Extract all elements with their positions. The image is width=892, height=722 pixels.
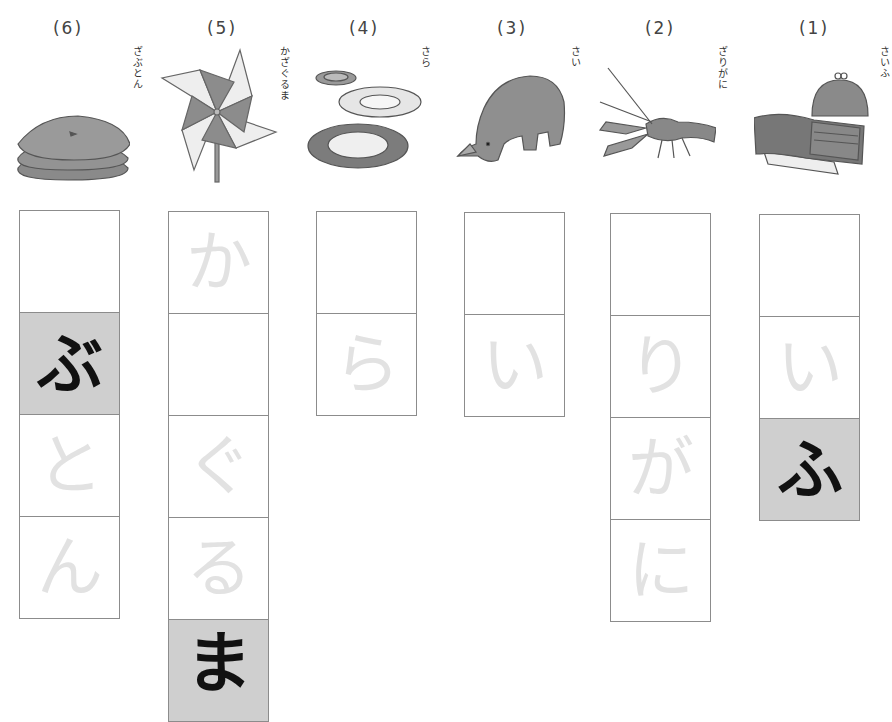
trace-character-cell[interactable]: ぐ xyxy=(169,416,268,518)
answer-column: さ い xyxy=(464,212,565,417)
model-character-cell: ふ xyxy=(760,419,859,521)
answer-column: ざ り が に xyxy=(610,213,711,622)
zabuton-cushions-picture xyxy=(10,40,130,185)
trace-character-cell[interactable]: ら xyxy=(317,314,416,416)
rhinoceros-picture xyxy=(454,40,574,185)
trace-character-cell[interactable]: る xyxy=(169,518,268,620)
item-4: (4) さら さ ら xyxy=(296,0,444,658)
answer-cell-blank[interactable]: さ xyxy=(465,213,564,315)
answer-column: か ざ ぐ る ま xyxy=(168,211,269,722)
crayfish-picture xyxy=(596,40,716,185)
item-word-label: さいふ xyxy=(878,46,888,79)
plates-picture xyxy=(304,40,424,185)
answer-cell-blank[interactable]: さ xyxy=(317,212,416,314)
trace-character-cell[interactable]: い xyxy=(760,317,859,419)
trace-character-cell[interactable]: ん xyxy=(20,517,119,619)
trace-character-cell[interactable]: い xyxy=(465,315,564,417)
answer-cell-blank[interactable]: ざ xyxy=(611,214,710,316)
item-word-label: ざりがに xyxy=(716,46,726,90)
answer-column: ざ ぶ と ん xyxy=(19,210,120,619)
item-5: (5) かざぐるま か ざ ぐ る ま xyxy=(148,0,296,658)
answer-cell-blank[interactable]: ざ xyxy=(169,314,268,416)
answer-column: さ ら xyxy=(316,211,417,416)
trace-character-cell[interactable]: と xyxy=(20,415,119,517)
item-3: (3) さい さ い xyxy=(444,0,592,658)
answer-column: さ い ふ xyxy=(759,214,860,521)
item-6: (6) ざぶとん ざ ぶ と ん xyxy=(0,0,148,658)
item-number: (6) xyxy=(0,18,142,38)
trace-character-cell[interactable]: が xyxy=(611,418,710,520)
pinwheel-picture xyxy=(160,40,280,185)
item-number: (4) xyxy=(290,18,438,38)
answer-cell-blank[interactable]: ざ xyxy=(20,211,119,313)
wallet-and-coin-purse-picture xyxy=(754,40,874,185)
model-character-cell: ぶ xyxy=(20,313,119,415)
item-word-label: ざぶとん xyxy=(131,46,141,90)
item-number: (3) xyxy=(438,18,586,38)
answer-cell-blank[interactable]: さ xyxy=(760,215,859,317)
model-character-cell: ま xyxy=(169,620,268,722)
item-number: (2) xyxy=(586,18,734,38)
item-number: (5) xyxy=(148,18,296,38)
item-1: (1) さいふ さ い ふ xyxy=(740,0,888,658)
trace-character-cell[interactable]: り xyxy=(611,316,710,418)
trace-character-cell[interactable]: に xyxy=(611,520,710,622)
item-2: (2) ざりがに ざ り が に xyxy=(592,0,740,658)
trace-character-cell[interactable]: か xyxy=(169,212,268,314)
item-number: (1) xyxy=(740,18,888,38)
